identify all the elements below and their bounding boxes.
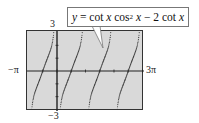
eq-var: x — [133, 11, 141, 23]
x-max-label: 3π — [146, 65, 156, 75]
graph-screen — [26, 30, 143, 110]
eq-text: = cot — [77, 11, 106, 23]
y-max-label: 3 — [50, 19, 55, 29]
x-min-label: −π — [8, 65, 19, 75]
y-min-label: −3 — [48, 111, 59, 121]
equation-callout: y = cot x cos 2 x − 2 cot x — [67, 7, 189, 27]
eq-text: − 2 cot — [141, 11, 179, 23]
plot-area — [27, 31, 144, 111]
eq-var: x — [179, 11, 184, 23]
eq-text: cos — [111, 11, 129, 23]
